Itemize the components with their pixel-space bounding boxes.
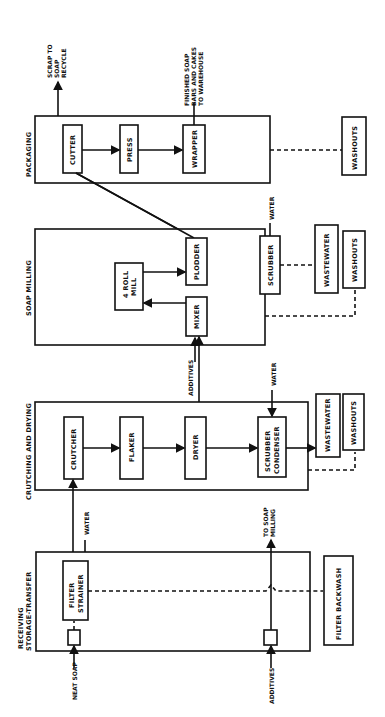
crutching-drying-label: CRUTCHING AND DRYING <box>25 403 33 500</box>
filter-strainer-label-2: STRAINER <box>77 574 85 613</box>
washouts-crutching-label: WASHOUTS <box>350 401 358 445</box>
scrap-label-1: SCRAP TO <box>46 44 53 78</box>
scrap-label-3: RECYCLE <box>60 48 67 78</box>
finished-label-3: TO WAREHOUSE <box>197 52 204 106</box>
wastewater-crutching-label: WASTEWATER <box>324 398 332 452</box>
wrapper-label: WRAPPER <box>191 130 199 168</box>
neat-soap-tank-icon <box>68 630 80 645</box>
scrubber-condenser-label-2: CONDENSER <box>273 426 281 474</box>
packaging-label: PACKAGING <box>25 132 33 177</box>
scrubber-milling-label: SCRUBBER <box>267 245 275 287</box>
plodder-label: PLODDER <box>193 243 201 280</box>
to-soap-milling-label-2: MILLING <box>269 509 276 537</box>
receiving-label: RECEIVING <box>17 607 25 649</box>
water-recv-label: WATER <box>83 511 90 535</box>
neat-soap-label: NEAT SOAP <box>71 662 78 700</box>
washouts-packaging-label: WASHOUTS <box>351 126 359 170</box>
water-crutch-label: WATER <box>270 362 277 386</box>
storage-transfer-label: STORAGE-TRANSFER <box>25 572 33 651</box>
scrap-label-2: SOAP <box>53 59 60 78</box>
dryer-label: DRYER <box>192 434 200 460</box>
soap-milling-section: SOAP MILLING 4 ROLL MILL PLODDER MIXER S… <box>25 173 365 345</box>
finished-label-2: BARS AND CAKES <box>190 47 197 106</box>
four-roll-mill-label-2: MILL <box>130 278 138 296</box>
mixer-label: MIXER <box>193 304 201 329</box>
water-mill-label: WATER <box>268 196 275 220</box>
additives-tank-icon <box>264 630 277 645</box>
flaker-label: FLAKER <box>128 432 136 462</box>
additives-mill-label: ADDITIVES <box>187 360 194 396</box>
additives-recv-label: ADDITIVES <box>268 668 275 704</box>
filter-strainer-label-1: FILTER <box>68 582 76 608</box>
soap-process-flow-diagram: PACKAGING CUTTER PRESS WRAPPER SCRAP TO … <box>0 0 385 717</box>
receiving-section: RECEIVING STORAGE-TRANSFER FILTER STRAIN… <box>17 507 353 704</box>
finished-label-1: FINISHED SOAP <box>183 53 190 106</box>
wastewater-milling-label: WASTEWATER <box>323 233 331 287</box>
packaging-section: PACKAGING CUTTER PRESS WRAPPER SCRAP TO … <box>25 44 366 183</box>
scrubber-condenser-label-1: SCRUBBER <box>264 431 272 473</box>
filter-backwash-label: FILTER BACKWASH <box>335 568 343 640</box>
crutcher-label: CRUTCHER <box>70 428 78 470</box>
scrubber-condenser-box <box>258 417 286 477</box>
crutching-drying-section: CRUTCHING AND DRYING CRUTCHER FLAKER DRY… <box>25 362 364 500</box>
soap-milling-label: SOAP MILLING <box>25 260 33 316</box>
to-soap-milling-label-1: TO SOAP <box>262 507 269 537</box>
washouts-milling-label: WASHOUTS <box>351 238 359 282</box>
cutter-label: CUTTER <box>69 135 77 165</box>
four-roll-mill-label-1: 4 ROLL <box>122 271 130 298</box>
soap-milling-box <box>35 229 265 345</box>
press-label: PRESS <box>126 137 134 162</box>
